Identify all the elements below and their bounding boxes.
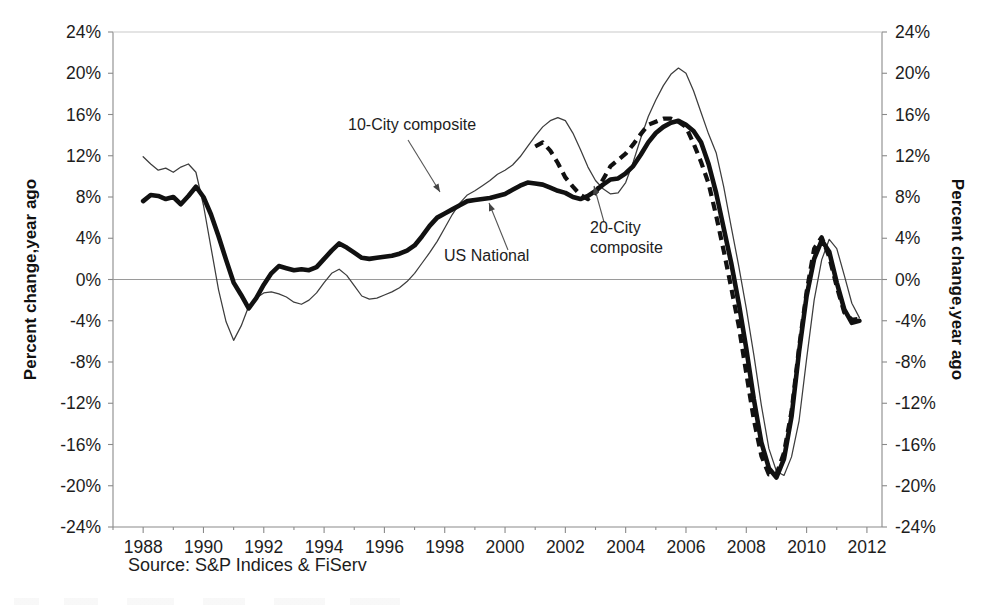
y-axis-title-right: Percent change,year ago: [948, 179, 967, 380]
y-tick-label-right: -24%: [895, 517, 936, 537]
y-tick-label-right: 8%: [895, 187, 920, 207]
x-tick-label: 2004: [606, 537, 645, 557]
x-tick-label: 2006: [667, 537, 706, 557]
annotation-arrow-head: [489, 203, 495, 212]
y-tick-label-right: 4%: [895, 228, 920, 248]
y-tick-label-left: 20%: [66, 63, 101, 83]
annotation-10-city-composite: 10-City composite: [348, 116, 476, 133]
series-line-us-national: [143, 121, 859, 478]
x-tick-label: 1992: [244, 537, 283, 557]
y-tick-label-left: 16%: [66, 105, 101, 125]
y-tick-label-left: 12%: [66, 146, 101, 166]
y-tick-label-right: -16%: [895, 435, 936, 455]
y-tick-label-left: -12%: [60, 393, 101, 413]
y-tick-label-left: 8%: [76, 187, 101, 207]
scan-artifact: [14, 598, 434, 605]
y-axis-title-left: Percent change,year ago: [21, 179, 40, 380]
annotation-20-city-composite: 20-City: [590, 219, 641, 236]
annotation-20-city-composite-line-2: composite: [590, 239, 663, 256]
y-tick-label-right: 24%: [895, 22, 930, 42]
y-tick-label-right: 16%: [895, 105, 930, 125]
y-tick-label-right: -8%: [895, 352, 926, 372]
annotation-leader-line: [408, 140, 440, 192]
y-tick-label-right: -4%: [895, 311, 926, 331]
y-tick-label-right: 12%: [895, 146, 930, 166]
x-tick-label: 2000: [486, 537, 525, 557]
y-tick-label-left: -20%: [60, 476, 101, 496]
x-tick-label: 2010: [787, 537, 826, 557]
y-tick-label-left: -16%: [60, 435, 101, 455]
y-tick-label-right: 0%: [895, 270, 920, 290]
chart-container: 24%24%20%20%16%16%12%12%8%8%4%4%0%0%-4%-…: [0, 0, 982, 609]
y-tick-label-left: 0%: [76, 270, 101, 290]
annotation-arrow-head: [433, 184, 440, 192]
y-tick-label-left: 4%: [76, 228, 101, 248]
x-tick-label: 2012: [847, 537, 886, 557]
y-tick-label-right: -20%: [895, 476, 936, 496]
y-tick-label-right: -12%: [895, 393, 936, 413]
y-tick-label-left: -4%: [70, 311, 101, 331]
series-line-20-city-composite: [535, 119, 859, 475]
y-tick-label-left: 24%: [66, 22, 101, 42]
x-tick-label: 1998: [425, 537, 464, 557]
y-tick-label-right: 20%: [895, 63, 930, 83]
annotation-us-national: US National: [444, 247, 529, 264]
x-tick-label: 1988: [124, 537, 163, 557]
y-tick-label-left: -24%: [60, 517, 101, 537]
x-tick-label: 2002: [546, 537, 585, 557]
x-tick-label: 2008: [727, 537, 766, 557]
x-tick-label: 1994: [305, 537, 344, 557]
source-caption: Source: S&P Indices & FiServ: [128, 555, 367, 575]
x-tick-label: 1996: [365, 537, 404, 557]
y-tick-label-left: -8%: [70, 352, 101, 372]
case-shiller-home-price-index-chart: 24%24%20%20%16%16%12%12%8%8%4%4%0%0%-4%-…: [0, 0, 982, 609]
x-tick-label: 1990: [184, 537, 223, 557]
